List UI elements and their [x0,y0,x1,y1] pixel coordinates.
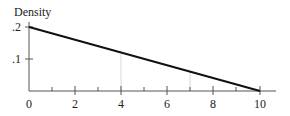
x-tick-label-4: 4 [118,97,124,111]
density-chart: Density .2 .1 0 2 4 6 8 10 [0,0,290,116]
x-tick-label-6: 6 [164,97,170,111]
x-tick-label-10: 10 [254,97,266,111]
y-tick-label-0.2: .2 [12,20,21,34]
y-tick-label-0.1: .1 [12,52,21,66]
x-tick-label-0: 0 [26,97,32,111]
x-tick-label-8: 8 [210,97,216,111]
density-line [29,27,260,91]
x-tick-label-2: 2 [72,97,78,111]
y-axis-label: Density [14,5,51,19]
